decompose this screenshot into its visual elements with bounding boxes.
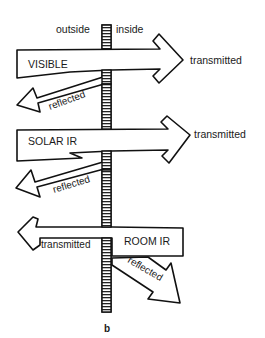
visible-label: VISIBLE — [28, 58, 68, 70]
glass-pane-segment — [102, 84, 111, 129]
outside-label: outside — [56, 23, 90, 35]
solar-ir-arrow-group: SOLAR IR transmitted reflected — [16, 116, 246, 197]
figure-sublabel: b — [104, 323, 110, 334]
inside-label: inside — [116, 23, 144, 35]
glass-pane-segment — [102, 25, 111, 49]
solar-ir-label: SOLAR IR — [28, 135, 77, 147]
solar-ir-transmitted-label: transmitted — [194, 128, 246, 140]
window-radiation-diagram: outside inside VISIBLE transmitted refle… — [0, 0, 265, 338]
room-ir-label: ROOM IR — [124, 235, 170, 247]
visible-arrow-group: VISIBLE transmitted reflected — [17, 34, 242, 112]
visible-transmitted-label: transmitted — [190, 54, 242, 66]
room-ir-arrow-group: ROOM IR transmitted reflected — [18, 170, 183, 312]
room-ir-transmitted-label: transmitted — [41, 239, 90, 250]
